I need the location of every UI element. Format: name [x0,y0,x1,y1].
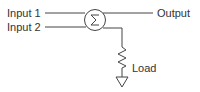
ground-icon [116,77,128,87]
resistor-icon [118,47,126,68]
circuit-diagram [0,0,200,92]
sigma-circle-icon [85,10,106,31]
load-wire [103,28,122,47]
